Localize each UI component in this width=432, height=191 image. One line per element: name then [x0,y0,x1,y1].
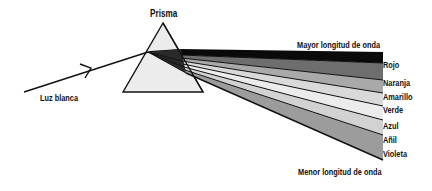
longer-wavelength-note: Mayor longitud de onda [297,40,380,50]
arrow-icon [80,64,91,78]
white-light-label: Luz blanca [40,93,78,103]
label-rojo: Rojo [383,60,399,70]
spectrum-bands [148,49,383,160]
label-amarillo: Amarillo [383,92,412,102]
prism-dispersion-diagram: Prisma Luz blanca Mayor longitud de onda… [0,0,432,191]
spectrum-labels: Rojo Naranja Amarillo Verde Azul Añil Vi… [383,60,412,159]
label-anil: Añil [383,135,397,145]
label-azul: Azul [383,121,399,131]
prism-title: Prisma [150,8,178,19]
label-naranja: Naranja [383,78,410,88]
shorter-wavelength-note: Menor longitud de onda [298,167,382,177]
label-verde: Verde [383,105,403,115]
label-violeta: Violeta [383,149,407,159]
